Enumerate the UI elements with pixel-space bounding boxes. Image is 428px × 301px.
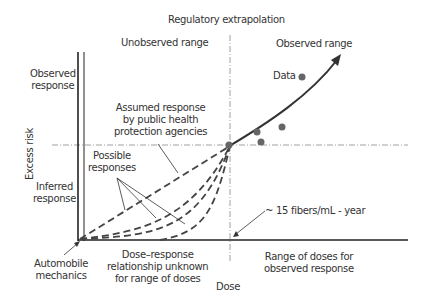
automobile-line-1: Automobile <box>34 258 88 270</box>
data-point <box>279 124 286 131</box>
observed-response-line-1: Observed <box>30 68 76 80</box>
data-label: Data <box>273 70 296 82</box>
data-point <box>258 139 265 146</box>
observed-range-label: Observed range <box>276 38 352 50</box>
possible-pointer-3 <box>117 178 185 224</box>
assumed-response-line-3: protection agencies <box>114 126 207 138</box>
inferred-response-line-2: response <box>33 193 76 205</box>
possible-responses-label: Possible responses <box>88 150 136 174</box>
assumed-response-pointer <box>158 144 178 173</box>
assumed-response-line-2: by public health <box>114 114 207 126</box>
y-axis-label: Excess risk <box>24 128 36 180</box>
diagram-canvas <box>0 0 428 301</box>
data-points <box>254 74 306 146</box>
inferred-response-label: Inferred response <box>33 181 76 205</box>
possible-responses-line-1: Possible <box>88 150 136 162</box>
observed-response-line-2: response <box>30 80 76 92</box>
junction-point <box>226 142 233 149</box>
unknown-range-line-1: Dose–response <box>107 249 208 261</box>
assumed-response-line-1: Assumed response <box>114 102 207 114</box>
threshold-pointer <box>236 211 265 234</box>
inferred-response-line-1: Inferred <box>33 181 76 193</box>
automobile-mechanics-label: Automobile mechanics <box>34 258 88 282</box>
unobserved-range-label: Unobserved range <box>121 37 208 49</box>
x-axis-label: Dose <box>216 281 240 293</box>
observed-response-label: Observed response <box>30 68 76 92</box>
possible-responses-line-2: responses <box>88 162 136 174</box>
observed-doses-line-1: Range of doses for <box>264 251 354 263</box>
unknown-range-line-3: for range of doses <box>107 273 208 285</box>
possible-curve-4 <box>160 146 230 240</box>
data-point <box>254 129 261 136</box>
threshold-label: ~ 15 fibers/mL - year <box>265 205 365 217</box>
assumed-response-label: Assumed response by public health protec… <box>114 102 207 138</box>
observed-doses-label: Range of doses for observed response <box>264 251 354 275</box>
data-point <box>299 74 306 81</box>
observed-doses-line-2: observed response <box>264 263 354 275</box>
unknown-range-label: Dose–response relationship unknown for r… <box>107 249 208 285</box>
automobile-line-2: mechanics <box>34 270 88 282</box>
diagram-title: Regulatory extrapolation <box>168 14 285 26</box>
unknown-range-line-2: relationship unknown <box>107 261 208 273</box>
